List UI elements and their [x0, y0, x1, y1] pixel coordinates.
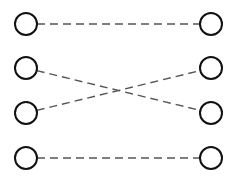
node-left-l3: [15, 102, 37, 124]
node-left-l2: [15, 57, 37, 79]
node-left-l4: [15, 147, 37, 169]
bipartite-matching-diagram: [0, 0, 227, 191]
node-right-r1: [200, 13, 222, 35]
node-right-r4: [200, 147, 222, 169]
node-right-r2: [200, 57, 222, 79]
node-right-r3: [200, 102, 222, 124]
node-left-l1: [15, 13, 37, 35]
